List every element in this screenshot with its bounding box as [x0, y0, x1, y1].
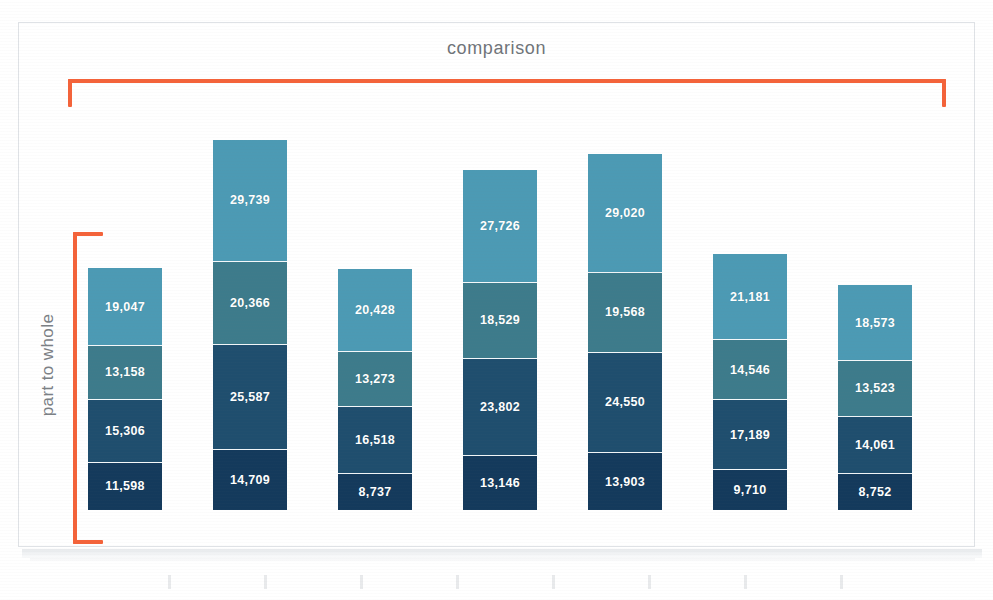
- bar-segment-value-label: 13,158: [105, 365, 145, 379]
- scan-edge-shadow-secondary: [30, 558, 975, 562]
- bar-segment-value-label: 11,598: [105, 479, 144, 493]
- part-to-whole-bracket-bar: [73, 232, 77, 544]
- stacked-bar[interactable]: 29,02019,56824,55013,903: [588, 154, 662, 510]
- bar-segment-segment-2-fri[interactable]: 14,546: [713, 340, 787, 400]
- stacked-bar[interactable]: 18,57313,52314,0618,752: [838, 285, 912, 510]
- bar-segment-segment-4-sun[interactable]: 11,598: [88, 463, 162, 510]
- bar-segment-value-label: 16,518: [355, 433, 395, 447]
- bar-segment-value-label: 23,802: [480, 400, 520, 414]
- bar-segment-value-label: 13,523: [855, 381, 895, 395]
- bar-segment-value-label: 29,020: [605, 206, 645, 220]
- stacked-bar[interactable]: 20,42813,27316,5188,737: [338, 269, 412, 510]
- bar-segment-value-label: 19,047: [105, 300, 145, 314]
- bar-segment-segment-2-sun[interactable]: 13,158: [88, 346, 162, 400]
- bar-segment-value-label: 18,529: [480, 313, 520, 327]
- bar-segment-segment-1-sun[interactable]: 19,047: [88, 268, 162, 346]
- comparison-bracket-right-tick: [942, 79, 946, 107]
- page-title: comparison: [0, 38, 993, 59]
- stacked-bar[interactable]: 27,72618,52923,80213,146: [463, 170, 537, 511]
- bar-segment-segment-1-thu[interactable]: 29,020: [588, 154, 662, 273]
- bar-segment-value-label: 27,726: [480, 219, 520, 233]
- bar-segment-segment-4-mon[interactable]: 14,709: [213, 450, 287, 510]
- comparison-bracket-bar: [68, 79, 946, 83]
- stacked-bar[interactable]: 29,73920,36625,58714,709: [213, 140, 287, 510]
- bar-segment-segment-1-tue[interactable]: 20,428: [338, 269, 412, 353]
- stacked-bar-chart-plot-area: 19,04713,15815,30611,598Sun29,73920,3662…: [88, 110, 948, 510]
- stacked-bar[interactable]: 19,04713,15815,30611,598: [88, 268, 162, 510]
- bar-segment-value-label: 14,061: [855, 438, 895, 452]
- bar-segment-segment-4-thu[interactable]: 13,903: [588, 453, 662, 510]
- bar-segment-value-label: 13,903: [605, 475, 645, 489]
- bar-segment-value-label: 29,739: [230, 193, 270, 207]
- bar-segment-segment-4-sat[interactable]: 8,752: [838, 474, 912, 510]
- bar-segment-segment-3-tue[interactable]: 16,518: [338, 407, 412, 475]
- bar-segment-value-label: 21,181: [730, 290, 770, 304]
- bar-segment-value-label: 25,587: [230, 390, 270, 404]
- part-to-whole-bracket-bottom-tick: [73, 540, 103, 544]
- bar-segment-segment-1-sat[interactable]: 18,573: [838, 285, 912, 361]
- bar-segment-value-label: 17,189: [730, 428, 770, 442]
- comparison-bracket: [68, 79, 946, 107]
- bar-segment-segment-3-sat[interactable]: 14,061: [838, 417, 912, 475]
- scan-edge-shadow: [22, 549, 982, 558]
- bar-segment-segment-2-tue[interactable]: 13,273: [338, 352, 412, 406]
- bar-segment-value-label: 20,428: [355, 303, 395, 317]
- bar-segment-segment-1-wed[interactable]: 27,726: [463, 170, 537, 283]
- bar-segment-segment-3-mon[interactable]: 25,587: [213, 345, 287, 450]
- bar-segment-value-label: 14,709: [230, 473, 270, 487]
- bar-segment-segment-4-tue[interactable]: 8,737: [338, 474, 412, 510]
- bar-segment-segment-2-sat[interactable]: 13,523: [838, 361, 912, 416]
- bar-segment-value-label: 8,752: [859, 485, 892, 499]
- bar-segment-segment-3-thu[interactable]: 24,550: [588, 353, 662, 453]
- bar-segment-segment-3-wed[interactable]: 23,802: [463, 359, 537, 456]
- bar-segment-value-label: 15,306: [105, 424, 145, 438]
- bar-segment-segment-2-wed[interactable]: 18,529: [463, 283, 537, 359]
- bar-segment-segment-1-fri[interactable]: 21,181: [713, 254, 787, 341]
- y-axis-caption: part to whole: [38, 290, 58, 440]
- bar-segment-value-label: 13,273: [355, 372, 395, 386]
- bar-segment-value-label: 20,366: [230, 296, 270, 310]
- bar-segment-value-label: 24,550: [605, 395, 645, 409]
- bar-segment-segment-4-wed[interactable]: 13,146: [463, 456, 537, 510]
- bar-segment-segment-4-fri[interactable]: 9,710: [713, 470, 787, 510]
- bar-segment-segment-3-fri[interactable]: 17,189: [713, 400, 787, 470]
- bar-segment-value-label: 9,710: [734, 483, 767, 497]
- bar-segment-segment-2-mon[interactable]: 20,366: [213, 262, 287, 345]
- bar-segment-segment-1-mon[interactable]: 29,739: [213, 140, 287, 262]
- bar-segment-value-label: 14,546: [730, 363, 770, 377]
- bar-segment-segment-3-sun[interactable]: 15,306: [88, 400, 162, 463]
- comparison-bracket-left-tick: [68, 79, 72, 107]
- stacked-bar[interactable]: 21,18114,54617,1899,710: [713, 254, 787, 510]
- scan-speckle-artifact: [130, 575, 920, 589]
- bar-segment-value-label: 13,146: [480, 476, 520, 490]
- bar-segment-value-label: 19,568: [605, 305, 645, 319]
- bar-segment-value-label: 8,737: [359, 485, 392, 499]
- bar-segment-value-label: 18,573: [855, 316, 895, 330]
- bar-segment-segment-2-thu[interactable]: 19,568: [588, 273, 662, 353]
